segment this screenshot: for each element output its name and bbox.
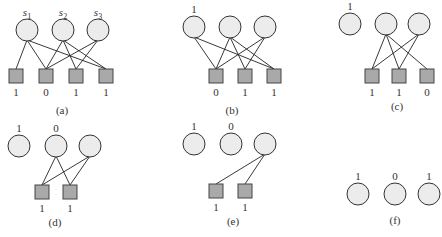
variable-node-circle bbox=[408, 13, 430, 35]
check-node-value-label: 0 bbox=[213, 86, 219, 98]
variable-node-label: 0 bbox=[53, 122, 59, 134]
check-node-square bbox=[238, 69, 252, 83]
check-node-square bbox=[99, 69, 113, 83]
tanner-graph-figure: s1s2s31011(a)1011(b)1110(c)1011(d)1011(e… bbox=[0, 0, 442, 237]
edge-line bbox=[216, 154, 265, 184]
check-node-value-label: 1 bbox=[213, 201, 219, 213]
check-node-value-label: 1 bbox=[369, 86, 375, 98]
edge-line bbox=[245, 154, 265, 184]
variable-node-circle bbox=[418, 183, 440, 205]
check-node-value-label: 1 bbox=[242, 201, 248, 213]
variable-node-label: 1 bbox=[191, 3, 197, 15]
variable-node-circle bbox=[79, 135, 101, 157]
variable-node-label: 1 bbox=[16, 122, 22, 134]
check-node-value-label: 0 bbox=[424, 86, 430, 98]
edge-line bbox=[399, 34, 419, 69]
edge-line bbox=[16, 40, 27, 69]
panel-caption-c: (c) bbox=[391, 100, 404, 113]
check-node-square bbox=[238, 184, 252, 198]
check-node-value-label: 0 bbox=[43, 86, 49, 98]
variable-node-label: s2 bbox=[59, 6, 67, 21]
check-node-value-label: 1 bbox=[73, 86, 79, 98]
check-node-square bbox=[69, 69, 83, 83]
variable-node-label: 0 bbox=[228, 120, 234, 132]
nodes-layer bbox=[8, 13, 440, 205]
check-node-square bbox=[392, 69, 406, 83]
panel-caption-d: (d) bbox=[49, 216, 62, 229]
edges-layer bbox=[16, 34, 427, 185]
panel-caption-b: (b) bbox=[226, 104, 239, 117]
check-node-square bbox=[365, 69, 379, 83]
check-node-square bbox=[420, 69, 434, 83]
variable-node-circle bbox=[8, 135, 30, 157]
variable-node-label: s3 bbox=[94, 6, 102, 21]
check-node-value-label: 1 bbox=[242, 86, 248, 98]
edge-line bbox=[56, 156, 70, 185]
check-node-square bbox=[39, 69, 53, 83]
variable-node-circle bbox=[347, 183, 369, 205]
check-node-value-label: 1 bbox=[13, 86, 19, 98]
check-node-square bbox=[209, 69, 223, 83]
variable-node-circle bbox=[183, 133, 205, 155]
panel-caption-f: (f) bbox=[390, 214, 401, 227]
check-node-square bbox=[267, 69, 281, 83]
variable-node-label: 1 bbox=[191, 120, 197, 132]
variable-node-label: 1 bbox=[347, 0, 353, 12]
check-node-value-label: 1 bbox=[396, 86, 402, 98]
variable-node-label: s1 bbox=[23, 6, 31, 21]
variable-node-circle bbox=[52, 19, 74, 41]
variable-node-circle bbox=[254, 133, 276, 155]
check-node-value-label: 1 bbox=[67, 202, 73, 214]
panel-caption-e: (e) bbox=[227, 215, 240, 228]
edge-line bbox=[70, 156, 90, 185]
variable-node-circle bbox=[220, 133, 242, 155]
variable-node-label: 1 bbox=[355, 170, 361, 182]
variable-node-circle bbox=[183, 16, 205, 38]
check-node-square bbox=[63, 185, 77, 199]
variable-node-circle bbox=[384, 183, 406, 205]
check-node-value-label: 1 bbox=[271, 86, 277, 98]
variable-node-label: 1 bbox=[426, 170, 432, 182]
variable-node-circle bbox=[16, 19, 38, 41]
variable-node-circle bbox=[254, 16, 276, 38]
variable-node-circle bbox=[375, 13, 397, 35]
variable-node-label: 0 bbox=[392, 170, 398, 182]
edge-line bbox=[27, 40, 46, 69]
variable-node-circle bbox=[339, 13, 361, 35]
check-node-square bbox=[209, 184, 223, 198]
check-node-square bbox=[35, 185, 49, 199]
check-node-square bbox=[9, 69, 23, 83]
edge-line bbox=[230, 37, 274, 69]
variable-node-circle bbox=[219, 16, 241, 38]
panel-caption-a: (a) bbox=[56, 104, 69, 117]
edge-line bbox=[230, 37, 245, 69]
variable-node-circle bbox=[87, 19, 109, 41]
edge-line bbox=[46, 40, 98, 69]
check-node-value-label: 1 bbox=[103, 86, 109, 98]
check-node-value-label: 1 bbox=[39, 202, 45, 214]
variable-node-circle bbox=[45, 135, 67, 157]
